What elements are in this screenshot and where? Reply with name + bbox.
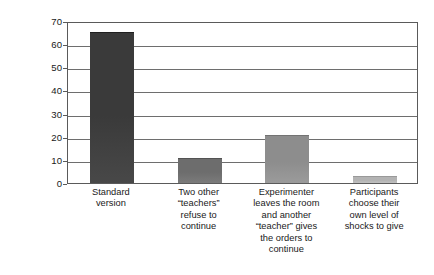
- y-tick-mark-50: [63, 68, 67, 69]
- y-tick-mark-40: [63, 91, 67, 92]
- bar: [265, 135, 309, 183]
- x-axis-label: Experimenter leaves the room and another…: [243, 187, 331, 255]
- y-tick-label-10: 10: [40, 156, 62, 166]
- y-tick-label-70: 70: [40, 17, 62, 27]
- y-tick-mark-20: [63, 138, 67, 139]
- bar: [90, 32, 134, 183]
- bar: [353, 176, 397, 183]
- y-tick-mark-30: [63, 115, 67, 116]
- x-axis-label: Standard version: [67, 187, 155, 210]
- y-axis-tick-labels: 010203040506070: [40, 22, 62, 184]
- y-tick-label-40: 40: [40, 86, 62, 96]
- y-tick-label-30: 30: [40, 110, 62, 120]
- x-axis-label: Two other “teachers” refuse to continue: [155, 187, 243, 233]
- y-tick-label-20: 20: [40, 133, 62, 143]
- bar: [178, 158, 222, 183]
- bars-group: [68, 23, 417, 183]
- y-tick-mark-70: [63, 22, 67, 23]
- y-tick-label-0: 0: [40, 179, 62, 189]
- y-tick-label-60: 60: [40, 40, 62, 50]
- y-tick-mark-60: [63, 45, 67, 46]
- bar-chart-figure: Percentage giving the highest level of s…: [0, 0, 434, 275]
- y-tick-mark-0: [63, 184, 67, 185]
- x-axis-label: Participants choose their own level of s…: [330, 187, 418, 233]
- x-axis-category-labels: Standard versionTwo other “teachers” ref…: [67, 187, 418, 273]
- y-tick-mark-10: [63, 161, 67, 162]
- plot-area: [67, 22, 418, 184]
- y-tick-label-50: 50: [40, 63, 62, 73]
